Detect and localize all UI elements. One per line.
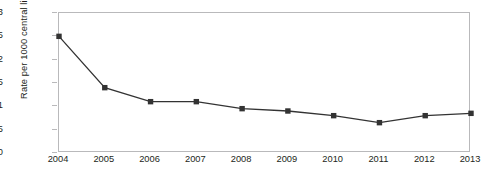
x-tick-label: 2009 (277, 154, 298, 164)
x-tick-label: 2013 (460, 154, 481, 164)
x-tick-label: 2004 (48, 154, 69, 164)
data-point-marker (239, 106, 244, 111)
series-line (59, 36, 471, 122)
y-tick-label: 2.5 (0, 30, 3, 40)
data-series (59, 13, 471, 153)
y-tick-label: 1.5 (0, 77, 3, 87)
x-tick-label: 2005 (93, 154, 114, 164)
x-tick-label: 2010 (322, 154, 343, 164)
y-tick-mark (52, 152, 57, 153)
x-tick-label: 2008 (231, 154, 252, 164)
x-tick-label: 2006 (139, 154, 160, 164)
data-point-marker (148, 99, 153, 104)
data-point-marker (102, 85, 107, 90)
y-axis-label: Rate per 1000 central line days (19, 0, 29, 107)
y-tick-label: 2 (0, 54, 3, 64)
x-tick-label: 2007 (185, 154, 206, 164)
line-chart: Rate per 1000 central line days 00.511.5… (0, 0, 485, 181)
data-point-marker (285, 108, 290, 113)
y-tick-label: 1 (0, 100, 3, 110)
data-point-marker (194, 99, 199, 104)
data-point-marker (468, 111, 473, 116)
data-point-marker (331, 113, 336, 118)
y-tick-label: 3 (0, 7, 3, 17)
data-point-marker (423, 113, 428, 118)
y-tick-mark (52, 12, 57, 13)
y-tick-mark (52, 82, 57, 83)
y-tick-mark (52, 129, 57, 130)
plot-area (58, 12, 470, 152)
data-point-marker (377, 120, 382, 125)
y-tick-label: 0 (0, 147, 3, 157)
y-tick-mark (52, 105, 57, 106)
x-tick-label: 2011 (368, 154, 388, 164)
data-point-marker (56, 34, 61, 39)
y-tick-label: 0.5 (0, 124, 3, 134)
y-tick-mark (52, 35, 57, 36)
x-tick-label: 2012 (414, 154, 435, 164)
y-tick-mark (52, 59, 57, 60)
